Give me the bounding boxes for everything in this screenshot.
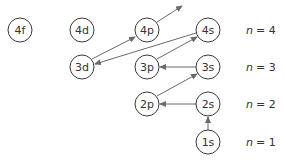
shell-var: n (246, 61, 253, 74)
arrow-3p-to-4s (157, 37, 197, 59)
shell-var: n (246, 136, 253, 149)
orbital-3s: 3s (196, 55, 220, 79)
orbital-4f: 4f (8, 18, 32, 42)
arrow-2p-to-3s (157, 74, 197, 96)
orbital-label: 2s (202, 98, 215, 111)
orbital-label: 3s (202, 61, 215, 74)
orbital-4s: 4s (196, 18, 220, 42)
shell-var: n (246, 24, 253, 37)
orbital-label: 4p (140, 24, 154, 37)
orbital-label: 1s (202, 136, 215, 149)
shell-eq: = 2 (256, 98, 276, 111)
arrow-3d-to-4p (92, 37, 135, 59)
orbital-label: 4f (15, 24, 27, 37)
orbital-3d: 3d (70, 55, 94, 79)
orbital-2s: 2s (196, 92, 220, 116)
shell-eq: = 1 (256, 136, 276, 149)
orbital-label: 2p (140, 98, 154, 111)
shell-eq: = 4 (256, 24, 276, 37)
orbital-filling-diagram: 4f 4d 4p 4s 3d 3p 3s 2p 2s 1s n = 4 n (0, 0, 285, 167)
orbital-4d: 4d (70, 18, 94, 42)
shell-label-n2: n = 2 (246, 98, 276, 111)
shell-var: n (246, 98, 253, 111)
orbital-1s: 1s (196, 130, 220, 154)
shell-label-n3: n = 3 (246, 61, 276, 74)
orbital-label: 4d (75, 24, 89, 37)
orbital-2p: 2p (135, 92, 159, 116)
shell-label-n4: n = 4 (246, 24, 276, 37)
orbital-label: 3d (75, 61, 89, 74)
orbital-label: 3p (140, 61, 154, 74)
orbital-3p: 3p (135, 55, 159, 79)
orbital-4p: 4p (135, 18, 159, 42)
shell-label-n1: n = 1 (246, 136, 276, 149)
arrow-4p-to-next (157, 6, 182, 22)
orbital-label: 4s (202, 24, 215, 37)
shell-eq: = 3 (256, 61, 276, 74)
